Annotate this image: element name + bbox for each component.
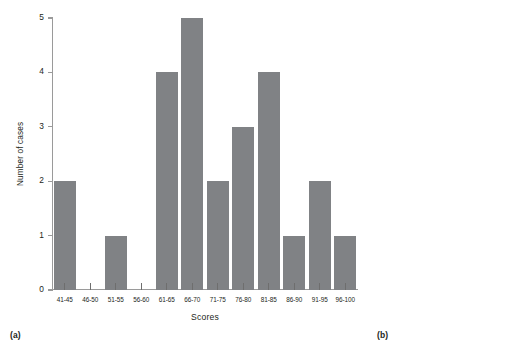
panel-a-x-tick-label: 96-100 — [329, 296, 363, 303]
panel-a-tag: (a) — [10, 330, 21, 340]
panel-a-y-tick-label: 4 — [24, 66, 44, 76]
panel-a-x-tick — [217, 283, 218, 290]
panel-a-y-tick-label: 2 — [24, 175, 44, 185]
bar — [54, 181, 76, 290]
bar — [258, 72, 280, 290]
panel-a-x-tick — [294, 283, 295, 290]
panel-a: Number of cases 012345 41-4546-5051-5556… — [0, 0, 370, 354]
panel-a-y-tick — [48, 289, 53, 290]
panel-a-y-tick — [48, 72, 53, 73]
panel-a-x-tick — [141, 283, 142, 290]
panel-a-y-tick — [48, 17, 53, 18]
panel-a-y-tick-label: 3 — [24, 121, 44, 131]
panel-a-y-tick-label: 0 — [24, 284, 44, 294]
bar — [309, 181, 331, 290]
bar — [207, 181, 229, 290]
panel-a-y-tick — [48, 126, 53, 127]
panel-a-x-tick — [90, 283, 91, 290]
panel-a-x-tick — [319, 283, 320, 290]
panel-a-y-tick — [48, 235, 53, 236]
panel-a-x-tick — [268, 283, 269, 290]
bar — [181, 18, 203, 290]
panel-a-x-tick — [192, 283, 193, 290]
figure-container: Number of cases 012345 41-4546-5051-5556… — [0, 0, 525, 354]
panel-b: Number of cases 048121620 PassFail (b) — [370, 0, 525, 354]
bar — [232, 127, 254, 290]
panel-a-x-tick — [115, 283, 116, 290]
panel-a-x-axis-label: Scores — [52, 312, 358, 322]
panel-a-plot-area: 012345 41-4546-5051-5556-6061-6566-7071-… — [52, 18, 358, 290]
panel-a-y-tick-label: 1 — [24, 230, 44, 240]
panel-a-y-tick-label: 5 — [24, 12, 44, 22]
panel-a-x-tick — [166, 283, 167, 290]
panel-a-x-tick — [243, 283, 244, 290]
panel-a-y-tick — [48, 181, 53, 182]
bar — [105, 236, 127, 290]
bar — [156, 72, 178, 290]
bar — [283, 236, 305, 290]
panel-a-x-tick — [345, 283, 346, 290]
panel-a-x-tick — [64, 283, 65, 290]
bar — [334, 236, 356, 290]
panel-b-tag: (b) — [377, 330, 388, 340]
